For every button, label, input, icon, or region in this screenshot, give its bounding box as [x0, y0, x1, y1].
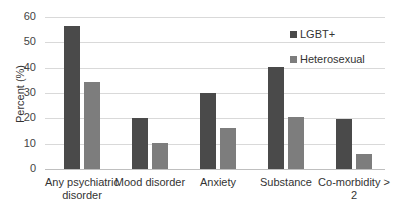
- bar-chart: 0102030405060 Percent (%) Any psychiatri…: [0, 0, 395, 211]
- legend-swatch-icon: [290, 31, 297, 38]
- legend-swatch-icon: [290, 56, 297, 63]
- gridline: [45, 17, 385, 18]
- bar-heterosexual: [220, 128, 236, 169]
- gridline: [45, 68, 385, 69]
- x-tick-label: Co-morbidity > 2: [317, 176, 391, 202]
- bar-lgbt-: [268, 67, 284, 169]
- y-tick-label: 60: [16, 10, 36, 22]
- bar-lgbt-: [336, 119, 352, 169]
- legend-item: Heterosexual: [290, 53, 365, 65]
- bar-lgbt-: [200, 93, 216, 169]
- y-axis-label: Percent (%): [14, 64, 26, 124]
- bar-heterosexual: [356, 154, 372, 169]
- y-tick-label: 10: [16, 137, 36, 149]
- gridline: [45, 169, 385, 170]
- legend-label: Heterosexual: [300, 53, 365, 65]
- bar-lgbt-: [132, 118, 148, 169]
- legend-item: LGBT+: [290, 28, 335, 40]
- gridline: [45, 42, 385, 43]
- y-tick-label: 50: [16, 35, 36, 47]
- bar-heterosexual: [152, 143, 168, 169]
- y-tick-label: 0: [16, 162, 36, 174]
- bar-heterosexual: [84, 82, 100, 169]
- bar-lgbt-: [64, 26, 80, 169]
- legend-label: LGBT+: [300, 28, 335, 40]
- bar-heterosexual: [288, 117, 304, 169]
